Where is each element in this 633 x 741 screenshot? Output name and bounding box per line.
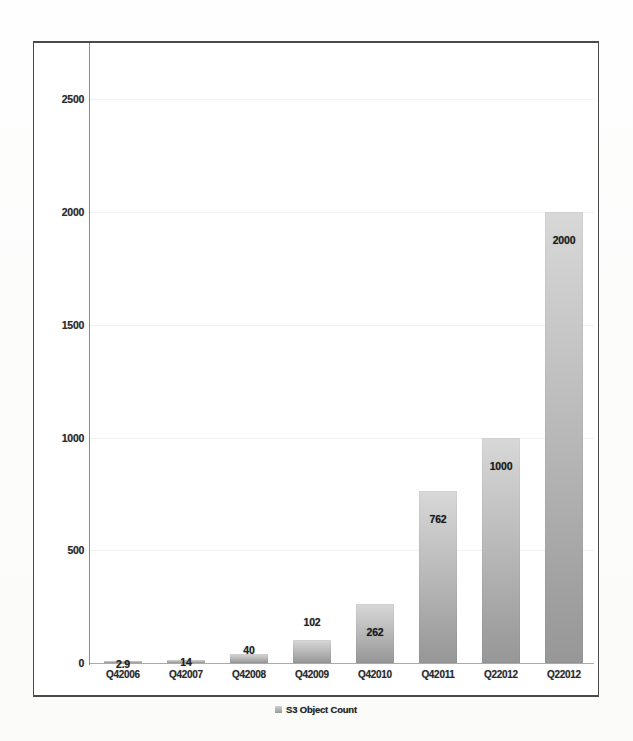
bar-Q42008-2[interactable]: 40 (230, 654, 268, 663)
gridline (90, 99, 594, 100)
chart-legend: S3 Object Count (34, 704, 598, 715)
bar-value-label: 2000 (534, 234, 594, 246)
gridline (90, 212, 594, 213)
bar-value-label: 1000 (471, 460, 531, 472)
y-axis-tick-label: 1500 (62, 319, 84, 331)
y-axis-tick-label: 1000 (62, 432, 84, 444)
bar-Q42011-5[interactable]: 762 (419, 491, 457, 663)
bar-Q22012-6[interactable]: 1000 (482, 438, 520, 664)
y-axis-tick-label: 500 (67, 544, 84, 556)
bar-value-label: 262 (345, 626, 405, 638)
gridline (90, 325, 594, 326)
y-axis-tick-label: 2500 (62, 93, 84, 105)
legend-label: S3 Object Count (286, 704, 357, 715)
bar-Q22012-7[interactable]: 2000 (545, 212, 583, 663)
chart-frame: 050010001500200025002.9Q4200614Q4200740Q… (33, 41, 599, 697)
plot-area: 050010001500200025002.9Q4200614Q4200740Q… (90, 43, 594, 663)
bar-Q42010-4[interactable]: 262 (356, 604, 394, 663)
bar-value-label: 102 (282, 616, 342, 628)
bar-Q42006-0[interactable]: 2.9 (104, 661, 142, 663)
legend-swatch-icon (275, 706, 282, 713)
bar-value-label: 40 (219, 644, 279, 656)
bar-value-label: 762 (408, 513, 468, 525)
bar-Q42009-3[interactable]: 102 (293, 640, 331, 663)
bar-value-label: 14 (156, 656, 216, 668)
y-axis-tick-label: 2000 (62, 206, 84, 218)
bar-Q42007-1[interactable]: 14 (167, 660, 205, 663)
y-axis-tick-label: 0 (78, 657, 84, 669)
x-axis-tick-label: Q22012 (524, 669, 604, 680)
